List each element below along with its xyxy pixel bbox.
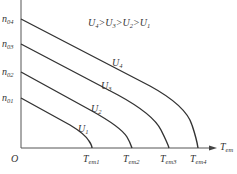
curve-u3 [21,44,169,148]
svg-text:Tem3: Tem3 [160,153,177,165]
curve-label-u4: U4 [112,57,123,69]
curve-label-u2: U2 [91,103,102,115]
svg-text:U1: U1 [78,123,88,135]
x-label-tem1: Tem1 [83,153,99,165]
y-label-n04: n04 [2,13,14,25]
curve-u4 [21,19,198,148]
x-axis-title: Tem [220,141,233,153]
svg-text:U3: U3 [101,80,112,92]
svg-text:Tem: Tem [220,141,233,153]
y-label-n01: n01 [2,92,14,104]
origin-label: O [11,153,18,164]
svg-text:U4: U4 [112,57,123,69]
x-axis-arrow-icon [209,146,217,151]
svg-text:U2: U2 [91,103,102,115]
svg-text:Tem1: Tem1 [83,153,99,165]
svg-text:Tem4: Tem4 [190,153,207,165]
curve-label-u1: U1 [78,123,88,135]
x-label-tem3: Tem3 [160,153,177,165]
svg-text:n04: n04 [2,13,14,25]
curve-u2 [21,72,132,148]
x-label-tem4: Tem4 [190,153,207,165]
y-label-n02: n02 [2,66,14,78]
svg-text:Tem2: Tem2 [123,153,140,165]
voltage-order-annotation: U4>U3>U2>U1 [88,17,150,29]
svg-text:n03: n03 [2,38,14,50]
svg-text:n01: n01 [2,92,14,104]
curve-label-u3: U3 [101,80,112,92]
mechanical-characteristic-chart: n04 n03 n02 n01 O Tem1 Tem2 Tem3 Tem4 Te… [0,0,237,174]
x-label-tem2: Tem2 [123,153,140,165]
svg-text:n02: n02 [2,66,14,78]
y-label-n03: n03 [2,38,14,50]
svg-text:U4>U3>U2>U1: U4>U3>U2>U1 [88,17,150,29]
